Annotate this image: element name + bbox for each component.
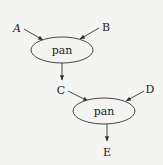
edge-c-to-pan2 <box>68 91 88 101</box>
label-e: E <box>103 146 111 159</box>
label-b: B <box>102 21 110 34</box>
pan-node-2-label: pan <box>94 105 115 118</box>
label-c: C <box>57 84 65 97</box>
edge-b-to-pan1 <box>80 28 99 39</box>
edge-a-to-pan1 <box>24 29 43 40</box>
edge-d-to-pan2 <box>126 91 144 101</box>
pan-node-1-label: pan <box>52 44 73 57</box>
dataflow-diagram: pan pan A B C D E <box>0 0 163 165</box>
label-a: A <box>12 22 21 35</box>
label-d: D <box>146 83 155 96</box>
